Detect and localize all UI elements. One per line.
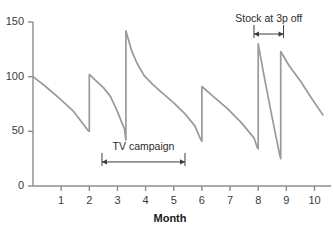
- tv-campaign-label: TV campaign: [83, 140, 203, 152]
- y-tick-label-50: 50: [0, 124, 24, 136]
- x-tick-label-10: 10: [301, 194, 329, 206]
- stock-at-3p-off-right-arrowhead: [279, 31, 284, 36]
- x-tick-label-1: 1: [47, 194, 75, 206]
- y-tick-label-0: 0: [0, 179, 24, 191]
- x-tick-label-5: 5: [160, 194, 188, 206]
- x-tick-label-7: 7: [216, 194, 244, 206]
- tv-campaign-right-arrowhead: [180, 159, 185, 164]
- x-tick-label-9: 9: [272, 194, 300, 206]
- x-tick-label-4: 4: [132, 194, 160, 206]
- stock-at-3p-off-label: Stock at 3p off: [209, 12, 329, 24]
- x-axis-ticks: [61, 186, 314, 191]
- stock-at-3p-off-left-arrowhead: [254, 31, 259, 36]
- y-tick-label-100: 100: [0, 70, 24, 82]
- tv-campaign-left-arrowhead: [102, 159, 107, 164]
- x-axis-title: Month: [120, 212, 220, 224]
- y-axis-ticks: [28, 22, 33, 186]
- x-tick-label-6: 6: [188, 194, 216, 206]
- y-tick-label-150: 150: [0, 15, 24, 27]
- stock-level-chart: 05010015012345678910 Month TV campaign S…: [0, 0, 333, 234]
- x-tick-label-3: 3: [103, 194, 131, 206]
- x-tick-label-2: 2: [75, 194, 103, 206]
- x-tick-label-8: 8: [244, 194, 272, 206]
